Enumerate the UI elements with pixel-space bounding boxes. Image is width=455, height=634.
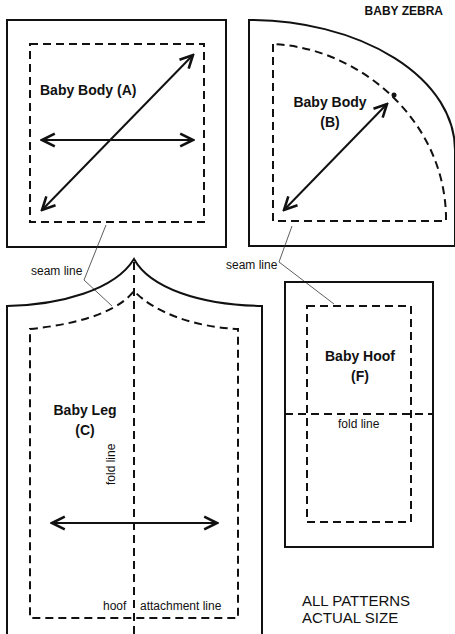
- footer-line-2: ACTUAL SIZE: [302, 609, 410, 626]
- piece-f-label: Baby Hoof (F): [320, 346, 400, 386]
- footer-line-1: ALL PATTERNS: [302, 592, 410, 609]
- fold-line-label-hoof: fold line: [338, 417, 379, 431]
- piece-c-id: (C): [50, 420, 120, 440]
- piece-a-baby-body: [7, 20, 226, 247]
- piece-a-label: Baby Body (A): [40, 80, 136, 100]
- piece-c-label: Baby Leg (C): [50, 400, 120, 440]
- piece-c-baby-leg: [7, 259, 262, 634]
- fold-line-label-leg: fold line: [104, 444, 118, 485]
- piece-b-cut-line: [249, 20, 455, 246]
- seam-line-label-left: seam line: [31, 264, 82, 278]
- attachment-line-label: attachment line: [140, 599, 221, 613]
- grain-arrow-diagonal-icon: [42, 55, 193, 210]
- seam-line-leader-right: [279, 226, 292, 262]
- piece-b-label: Baby Body (B): [290, 92, 370, 132]
- piece-f-name: Baby Hoof: [320, 346, 400, 366]
- piece-b-name: Baby Body: [290, 92, 370, 112]
- seam-line-label-right: seam line: [226, 258, 277, 272]
- piece-b-baby-body: [249, 20, 455, 246]
- piece-c-name: Baby Leg: [50, 400, 120, 420]
- piece-f-id: (F): [320, 366, 400, 386]
- seam-line-leader-left: [84, 225, 106, 280]
- page-title: BABY ZEBRA: [365, 4, 443, 18]
- piece-f-baby-hoof: [285, 282, 433, 547]
- hoof-label: hoof: [103, 599, 126, 613]
- footer-note: ALL PATTERNS ACTUAL SIZE: [302, 592, 410, 626]
- match-dot-icon: [392, 93, 397, 98]
- piece-b-id: (B): [290, 112, 370, 132]
